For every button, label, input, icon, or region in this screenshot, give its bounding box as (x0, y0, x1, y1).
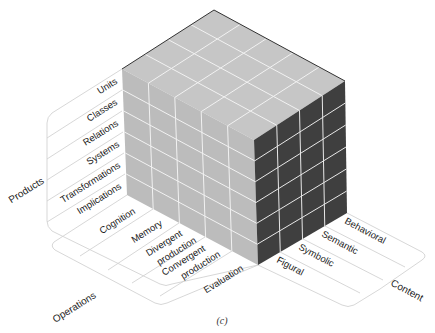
content-label-semantic: Semantic (320, 228, 360, 256)
product-label-units: Units (95, 75, 119, 96)
figure-caption: (c) (216, 315, 228, 327)
operations-axis-title: Operations (50, 289, 97, 324)
content-label-symbolic: Symbolic (297, 241, 336, 269)
operation-label-evaluation: Evaluation (202, 262, 245, 295)
products-axis-title: Products (6, 175, 45, 205)
structure-of-intellect-diagram: Units Classes Relations Systems Transfor… (0, 0, 435, 333)
content-axis-title: Content (389, 277, 425, 303)
